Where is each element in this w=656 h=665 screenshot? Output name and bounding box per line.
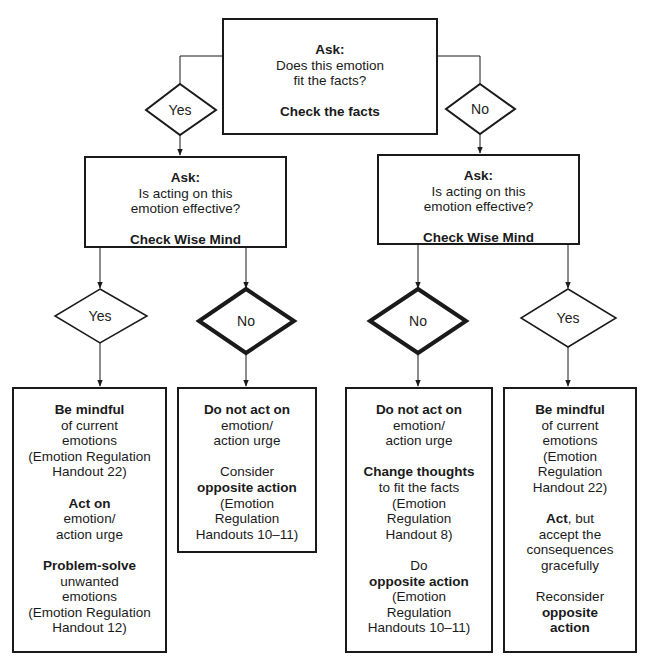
diamond-label-left-yes: Yes [89, 308, 112, 324]
outcome-text: (Emotion Regulation [14, 605, 165, 621]
outcome-text: , but [568, 511, 594, 526]
outcome-text: Handouts 10–11) [179, 527, 315, 543]
outcome-fits-effective-box: Be mindful of current emotions (Emotion … [12, 387, 167, 653]
outcome-text: emotions [14, 433, 165, 449]
outcome-text: emotion/ [179, 418, 315, 434]
root-action: Check the facts [224, 104, 436, 120]
outcome-text: opposite action [347, 574, 491, 590]
outcome-text: (Emotion [347, 496, 491, 512]
outcome-text: (Emotion [347, 589, 491, 605]
right-wise-mind-box: Ask: Is acting on this emotion effective… [377, 154, 580, 245]
outcome-text: Consider [179, 464, 315, 480]
outcome-text: of current [505, 418, 635, 434]
outcome-text: emotions [14, 589, 165, 605]
left-wise-mind-box: Ask: Is acting on this emotion effective… [84, 156, 287, 248]
diamond-label-left-no: No [237, 313, 255, 329]
outcome-text: Act on [14, 496, 165, 512]
outcome-text: opposite [505, 605, 635, 621]
outcome-text: Handout 8) [347, 527, 491, 543]
outcome-text: (Emotion [505, 449, 635, 465]
outcome-text: unwanted [14, 574, 165, 590]
outcome-text: Handouts 10–11) [347, 620, 491, 636]
root-question-line1: Does this emotion [224, 58, 436, 74]
outcome-text: (Emotion Regulation [14, 449, 165, 465]
root-question-line2: fit the facts? [224, 73, 436, 89]
left-wise-question-line2: emotion effective? [86, 201, 285, 217]
outcome-text: Regulation [347, 511, 491, 527]
outcome-text: action [505, 620, 635, 636]
outcome-text: Change thoughts [347, 464, 491, 480]
outcome-text: opposite action [179, 480, 315, 496]
right-wise-question-line2: emotion effective? [379, 199, 578, 215]
right-wise-question-line1: Is acting on this [379, 184, 578, 200]
outcome-not-fit-not-effective-box: Do not act on emotion/ action urge Chang… [345, 387, 493, 653]
outcome-text: accept the [505, 527, 635, 543]
outcome-text: Be mindful [14, 402, 165, 418]
outcome-text: consequences [505, 542, 635, 558]
outcome-text: Act, but [505, 511, 635, 527]
right-wise-action: Check Wise Mind [379, 230, 578, 246]
outcome-fits-not-effective-box: Do not act on emotion/ action urge Consi… [177, 387, 317, 553]
outcome-text: action urge [179, 433, 315, 449]
diamond-label-right-yes: Yes [557, 310, 580, 326]
outcome-text: Handout 22) [505, 480, 635, 496]
outcome-text: emotion/ [14, 511, 165, 527]
outcome-text: Do not act on [179, 402, 315, 418]
left-wise-question-line1: Is acting on this [86, 186, 285, 202]
outcome-text: Be mindful [505, 402, 635, 418]
outcome-text: action urge [14, 527, 165, 543]
outcome-text: to fit the facts [347, 480, 491, 496]
outcome-text: Problem-solve [14, 558, 165, 574]
outcome-text: Regulation [347, 605, 491, 621]
diamond-label-fits-no: No [471, 101, 489, 117]
root-ask-label: Ask: [224, 42, 436, 58]
root-question-box: Ask: Does this emotion fit the facts? Ch… [222, 18, 438, 135]
outcome-text: action urge [347, 433, 491, 449]
right-wise-ask-label: Ask: [379, 168, 578, 184]
outcome-text: gracefully [505, 558, 635, 574]
outcome-text: Regulation [179, 511, 315, 527]
outcome-text-bold: Act [546, 511, 568, 526]
outcome-not-fit-effective-box: Be mindful of current emotions (Emotion … [503, 387, 637, 653]
outcome-text: Do not act on [347, 402, 491, 418]
outcome-text: Regulation [505, 464, 635, 480]
left-wise-action: Check Wise Mind [86, 232, 285, 248]
outcome-text: of current [14, 418, 165, 434]
outcome-text: emotion/ [347, 418, 491, 434]
outcome-text: Reconsider [505, 589, 635, 605]
outcome-text: emotions [505, 433, 635, 449]
outcome-text: (Emotion [179, 496, 315, 512]
outcome-text: Do [347, 558, 491, 574]
outcome-text: Handout 12) [14, 620, 165, 636]
diamond-label-right-no: No [409, 313, 427, 329]
diamond-label-fits-yes: Yes [169, 102, 192, 118]
left-wise-ask-label: Ask: [86, 170, 285, 186]
outcome-text: Handout 22) [14, 464, 165, 480]
